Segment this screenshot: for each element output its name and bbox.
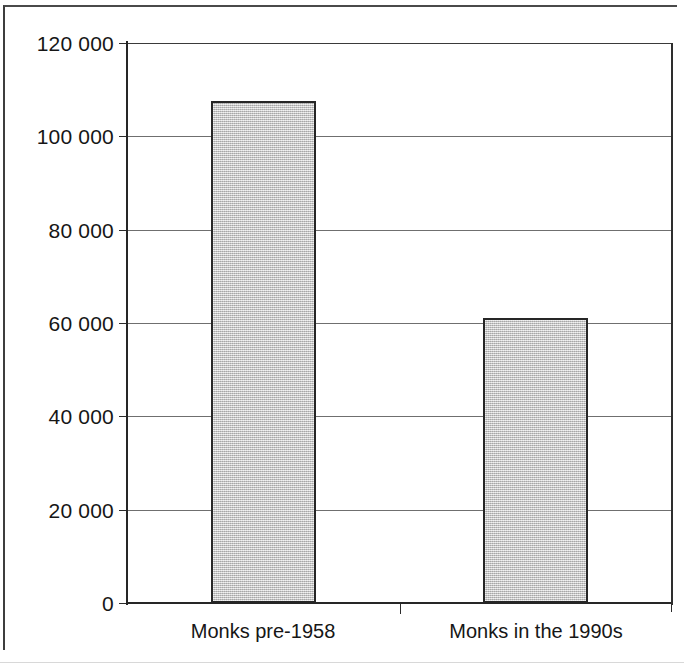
x-axis-tick-mark (671, 604, 672, 612)
gridline (127, 416, 672, 417)
y-axis-tick-label: 0 (0, 593, 114, 614)
bar (483, 318, 588, 603)
plot-right-border (671, 43, 673, 605)
gridline (127, 136, 672, 137)
x-axis-category-label: Monks pre-1958 (133, 620, 393, 642)
bar-chart: 120 000100 00080 00060 00040 00020 0000 … (0, 0, 684, 670)
bar (211, 101, 316, 603)
y-axis-tick-label: 40 000 (0, 406, 114, 427)
y-axis-line (126, 41, 128, 605)
y-axis-tick-label: 120 000 (0, 33, 114, 54)
gridline (127, 510, 672, 511)
gridline (127, 230, 672, 231)
gridline (127, 323, 672, 324)
y-axis-tick-label: 80 000 (0, 220, 114, 241)
y-axis-tick-label: 20 000 (0, 500, 114, 521)
y-axis-tick-label: 60 000 (0, 313, 114, 334)
y-axis-tick-label: 100 000 (0, 126, 114, 147)
x-axis-category-label: Monks in the 1990s (406, 620, 666, 642)
gridline (127, 43, 672, 44)
x-axis-tick-mark (400, 604, 401, 614)
